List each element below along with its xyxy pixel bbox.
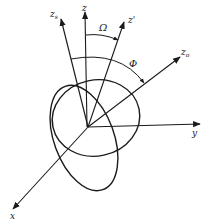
label-z-prime: z': [127, 15, 135, 25]
label-z: z: [81, 3, 87, 13]
label-z-s: zs: [49, 9, 58, 20]
rotation-diagram: zs z z' zo y x Ω Φ: [0, 0, 207, 223]
axis-z-prime: [88, 22, 124, 127]
label-phi: Φ: [129, 58, 137, 69]
label-z-o: zo: [180, 47, 190, 58]
axis-y: [88, 124, 200, 127]
label-y: y: [191, 128, 198, 138]
omega-arc: [86, 35, 118, 40]
axis-z: [85, 12, 87, 127]
axis-x: [13, 127, 88, 209]
label-omega: Ω: [98, 22, 107, 33]
label-x: x: [10, 211, 15, 221]
ellipse-2: [37, 76, 131, 200]
axis-z-s: [61, 19, 88, 127]
ellipse-1: [45, 72, 147, 165]
